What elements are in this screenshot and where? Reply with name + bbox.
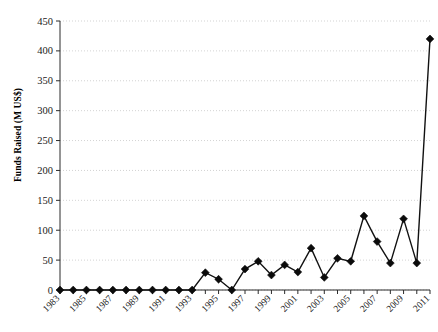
x-tick-label: 1991 bbox=[147, 293, 168, 314]
x-tick-label: 1995 bbox=[199, 293, 220, 314]
x-tick-label: 2001 bbox=[279, 293, 300, 314]
y-tick-label: 350 bbox=[37, 75, 53, 86]
x-tick-label: 2009 bbox=[384, 293, 405, 314]
data-point-marker bbox=[56, 286, 64, 294]
y-tick-label: 450 bbox=[37, 16, 53, 27]
y-tick-label: 100 bbox=[37, 225, 53, 236]
x-tick-label: 1993 bbox=[173, 293, 194, 314]
x-tick-label: 2011 bbox=[411, 293, 431, 313]
data-point-marker bbox=[307, 244, 315, 252]
x-tick-label: 1997 bbox=[226, 293, 247, 314]
y-axis-ticks: 050100150200250300350400450 bbox=[37, 16, 60, 296]
x-tick-label: 2003 bbox=[305, 293, 326, 314]
data-point-marker bbox=[122, 286, 130, 294]
data-point-marker bbox=[241, 265, 249, 273]
data-point-marker bbox=[373, 238, 381, 246]
y-tick-label: 0 bbox=[48, 285, 53, 296]
x-tick-label: 1985 bbox=[67, 293, 88, 314]
y-tick-label: 400 bbox=[37, 45, 53, 56]
x-tick-label: 1983 bbox=[41, 293, 62, 314]
data-point-marker bbox=[69, 286, 77, 294]
data-point-marker bbox=[175, 286, 183, 294]
funds-raised-line-chart: Funds Raised (M US$) 0501001502002503003… bbox=[0, 0, 438, 332]
y-tick-label: 200 bbox=[37, 165, 53, 176]
chart-plot-area: 050100150200250300350400450 198319851987… bbox=[0, 0, 438, 332]
data-point-marker bbox=[400, 215, 408, 223]
data-point-marker bbox=[109, 286, 117, 294]
data-point-marker bbox=[347, 257, 355, 265]
y-tick-label: 250 bbox=[37, 135, 53, 146]
y-tick-label: 300 bbox=[37, 105, 53, 116]
data-point-marker bbox=[149, 286, 157, 294]
data-point-marker bbox=[83, 286, 91, 294]
x-tick-label: 1999 bbox=[252, 293, 273, 314]
x-tick-label: 2007 bbox=[358, 293, 379, 314]
x-tick-label: 1989 bbox=[120, 293, 141, 314]
data-series-funds-raised bbox=[60, 39, 430, 290]
data-point-marker bbox=[96, 286, 104, 294]
axis-lines bbox=[60, 21, 430, 290]
data-point-marker bbox=[135, 286, 143, 294]
data-point-markers bbox=[56, 35, 434, 294]
x-tick-label: 2005 bbox=[332, 293, 353, 314]
x-tick-label: 1987 bbox=[94, 293, 115, 314]
data-point-marker bbox=[426, 35, 434, 43]
data-point-marker bbox=[162, 286, 170, 294]
series-polyline-funds-raised bbox=[60, 39, 430, 290]
data-point-marker bbox=[294, 268, 302, 276]
y-tick-label: 150 bbox=[37, 195, 53, 206]
data-point-marker bbox=[360, 212, 368, 220]
gridlines bbox=[60, 21, 430, 290]
y-tick-label: 50 bbox=[43, 255, 54, 266]
x-axis-labels: 1983198519871989199119931995199719992001… bbox=[41, 293, 432, 314]
